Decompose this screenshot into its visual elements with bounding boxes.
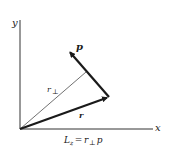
r-vector-arrow [20,98,107,129]
equation-label: L z = r ⊥ p [63,135,103,147]
r-perp-label-sub: ⊥ [52,88,59,96]
y-axis-label: y [11,17,18,28]
angular-momentum-diagram: y x p r r ⊥ L z = r ⊥ p [0,0,174,156]
p-vector-label: p [76,41,83,52]
r-perp-line [20,72,86,129]
r-vector-label: r [79,110,84,120]
r-perp-label: r ⊥ [47,85,59,96]
x-axis-label: x [155,122,161,133]
equation-rhs-tail: p [94,135,103,145]
p-vector-arrow [70,52,109,97]
equation-lhs: L [63,135,70,145]
